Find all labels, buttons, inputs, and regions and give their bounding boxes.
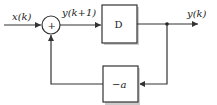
summer-plus-sign: + xyxy=(48,20,56,31)
output-label: y(k) xyxy=(186,8,207,19)
feedback-path-left xyxy=(51,35,103,84)
sum-output-label: y(k+1) xyxy=(61,7,96,18)
delay-block-label: D xyxy=(115,19,123,30)
feedback-path-right xyxy=(139,24,167,84)
block-diagram: x(k) + y(k+1) D y(k) −a xyxy=(0,0,217,105)
feedback-block-label: −a xyxy=(112,79,126,90)
input-label: x(k) xyxy=(12,11,32,22)
